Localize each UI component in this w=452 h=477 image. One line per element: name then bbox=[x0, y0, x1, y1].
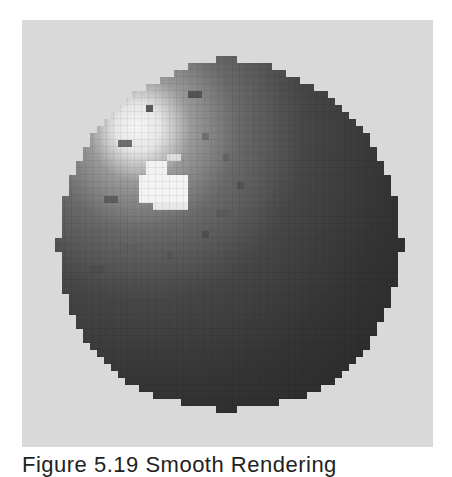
figure-panel bbox=[22, 20, 433, 447]
figure-caption: Figure 5.19 Smooth Rendering bbox=[22, 454, 337, 476]
shaded-sphere-image bbox=[22, 20, 433, 447]
